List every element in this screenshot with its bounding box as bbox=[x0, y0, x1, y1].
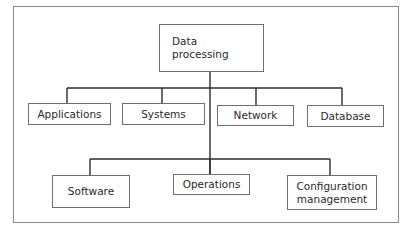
node-label: Applications bbox=[37, 108, 101, 121]
diagram-canvas: Data processing Applications Systems Net… bbox=[0, 0, 404, 229]
node-operations: Operations bbox=[173, 174, 250, 195]
node-data-processing: Data processing bbox=[159, 24, 264, 72]
node-configuration-management: Configuration management bbox=[287, 175, 377, 210]
node-systems: Systems bbox=[122, 103, 205, 125]
node-label: Network bbox=[234, 109, 278, 122]
node-label: Database bbox=[320, 110, 370, 123]
node-label: Systems bbox=[141, 108, 186, 121]
node-label: Software bbox=[68, 185, 114, 198]
node-applications: Applications bbox=[28, 103, 111, 125]
node-label: Configuration management bbox=[296, 180, 367, 206]
node-network: Network bbox=[217, 105, 294, 126]
node-software: Software bbox=[52, 175, 130, 208]
node-label: Data processing bbox=[172, 35, 229, 61]
node-label: Operations bbox=[183, 178, 241, 191]
node-database: Database bbox=[307, 105, 384, 127]
